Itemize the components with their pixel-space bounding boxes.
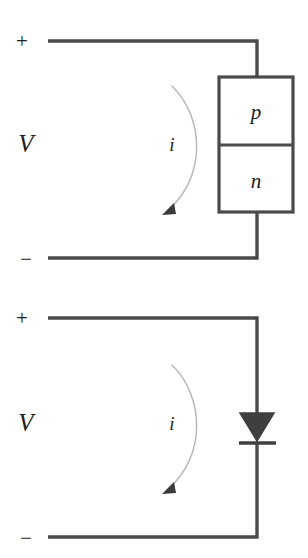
- top-wire-pn: [48, 41, 257, 77]
- figure-root: p n + − V i + − V: [0, 0, 308, 558]
- top-wire-diode: [48, 318, 257, 414]
- pn-junction-circuit: p n + − V i: [16, 29, 293, 271]
- diode-anode-triangle: [240, 413, 274, 441]
- voltage-label-pn: V: [18, 130, 36, 157]
- minus-terminal-label-pn: −: [20, 247, 32, 271]
- plus-terminal-label-pn: +: [16, 29, 28, 53]
- n-region-label: n: [251, 169, 262, 193]
- voltage-label-diode: V: [18, 409, 36, 436]
- p-region-label: p: [249, 100, 262, 124]
- current-arrowhead-diode: [162, 482, 176, 494]
- plus-terminal-label-diode: +: [16, 306, 28, 330]
- circuit-diagram-canvas: p n + − V i + − V: [0, 0, 308, 558]
- minus-terminal-label-diode: −: [20, 526, 32, 550]
- bottom-wire-pn: [48, 212, 257, 258]
- current-arrowhead-pn: [162, 203, 176, 215]
- bottom-wire-diode: [48, 443, 257, 537]
- diode-symbol-circuit: + − V i: [16, 306, 276, 550]
- current-label-diode: i: [169, 413, 174, 434]
- current-label-pn: i: [169, 134, 174, 155]
